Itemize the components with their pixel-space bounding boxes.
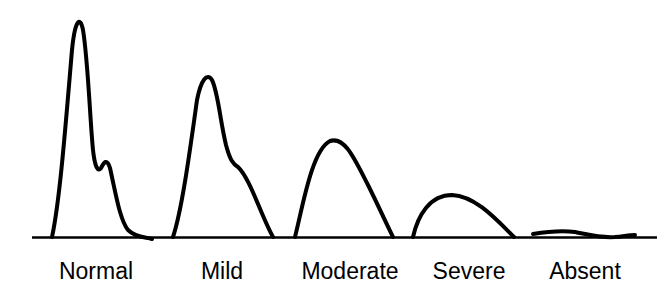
- waveform-mild: [173, 77, 273, 237]
- label-moderate: Moderate: [301, 258, 398, 285]
- waveform-normal: [52, 22, 152, 239]
- label-absent: Absent: [549, 258, 621, 285]
- waveform-diagram: [0, 0, 669, 286]
- label-mild: Mild: [201, 258, 243, 285]
- waveform-moderate: [295, 140, 393, 237]
- label-severe: Severe: [433, 258, 506, 285]
- label-normal: Normal: [59, 258, 133, 285]
- waveform-severe: [413, 195, 514, 237]
